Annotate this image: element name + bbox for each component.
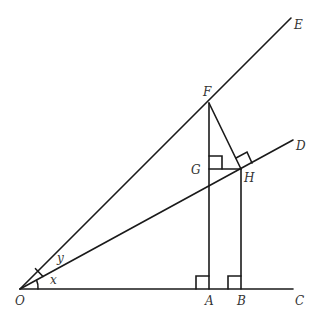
right-angle-mark-b (228, 276, 241, 289)
angle-arc-x (37, 280, 38, 289)
label-b: B (236, 294, 246, 308)
right-angle-mark-a (196, 276, 209, 289)
label-h: H (243, 171, 255, 185)
label-g: G (191, 163, 201, 177)
label-angle-x: x (50, 273, 57, 287)
label-e: E (293, 18, 303, 32)
label-c: C (295, 294, 304, 308)
segment-fh (209, 103, 241, 169)
label-angle-y: y (56, 251, 64, 265)
label-a: A (204, 294, 214, 308)
right-angle-mark-g (209, 156, 222, 169)
ray-oe (20, 18, 291, 289)
label-d: D (295, 139, 306, 153)
label-f: F (202, 85, 212, 99)
right-angle-mark-h (236, 152, 252, 163)
geometry-diagram: O A B C D E F G H x y (0, 0, 322, 319)
label-o: O (15, 294, 25, 308)
